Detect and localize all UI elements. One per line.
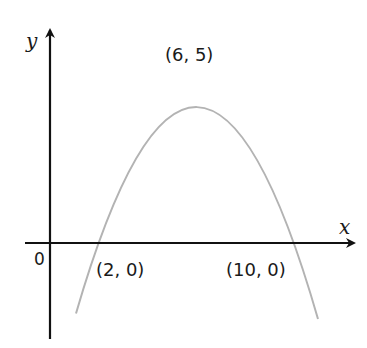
- x-axis-label: x: [339, 215, 350, 239]
- y-axis-label: y: [25, 29, 38, 53]
- origin-label: 0: [34, 249, 45, 269]
- right-root-label: (10, 0): [226, 259, 286, 280]
- parabola-curve: [76, 107, 318, 319]
- vertex-label: (6, 5): [165, 44, 213, 65]
- parabola-diagram: y x 0 (6, 5) (2, 0) (10, 0): [0, 0, 367, 348]
- left-root-label: (2, 0): [96, 259, 144, 280]
